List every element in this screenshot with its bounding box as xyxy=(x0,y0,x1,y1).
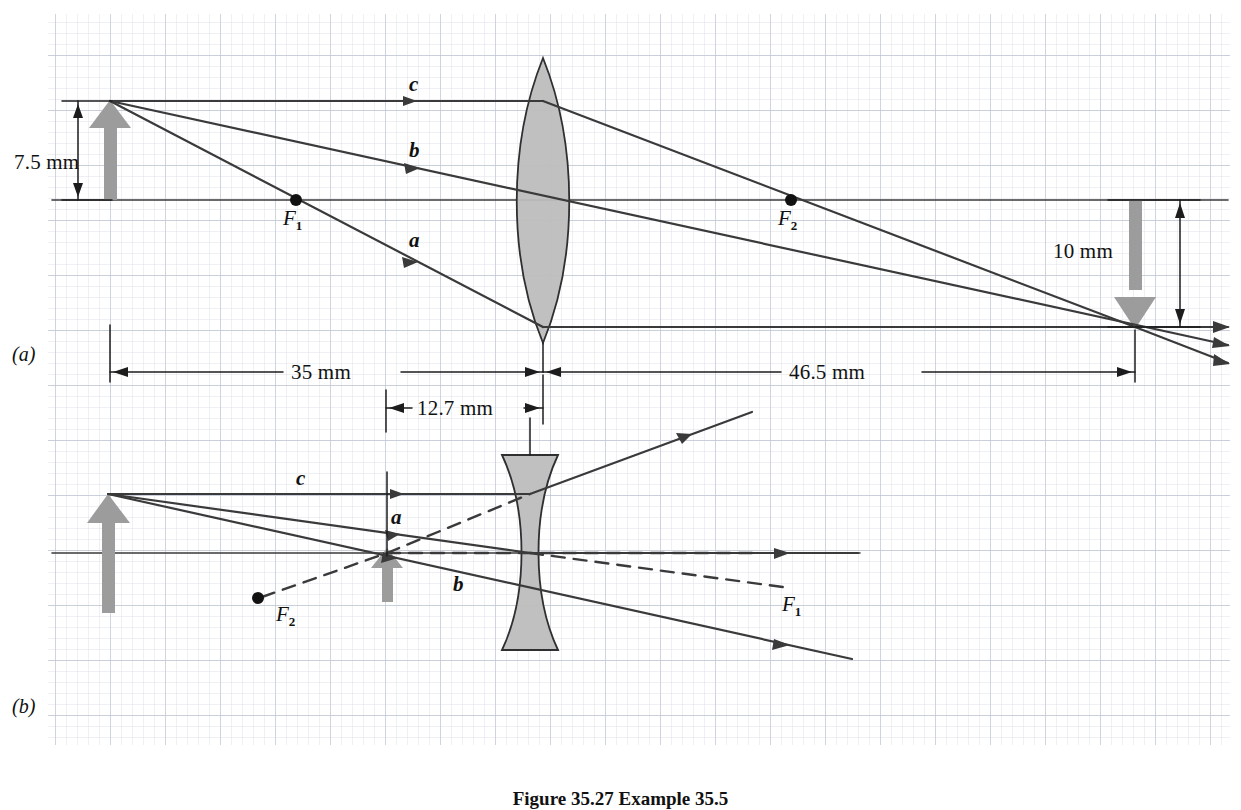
ray-b-b xyxy=(108,494,852,659)
ray-c-b-arrowhead xyxy=(390,489,404,499)
ray-c-b xyxy=(108,412,752,494)
ray-a-b xyxy=(108,494,858,553)
focal-label-f1-b-sub: 1 xyxy=(795,604,802,619)
focal-label-f2-b-letter: F xyxy=(276,602,289,626)
ray-label-b-b: b xyxy=(453,572,464,597)
ray-label-a-b: a xyxy=(391,505,402,530)
virtual-ray-c-b xyxy=(387,494,530,553)
ray-b-b-end-arrowhead xyxy=(772,639,790,650)
focal-label-f1-b: F1 xyxy=(782,592,801,620)
virtual-ray-f2-b xyxy=(262,553,387,597)
focal-label-f2-b: F2 xyxy=(276,602,295,630)
ray-label-c-b: c xyxy=(296,466,305,491)
ray-a-b-out-arrowhead xyxy=(774,548,790,559)
focal-label-f1-b-letter: F xyxy=(782,592,795,616)
figure-caption: Figure 35.27 Example 35.5 xyxy=(0,788,1241,810)
virtual-ray-f1-b xyxy=(530,553,790,588)
panel-label-b: (b) xyxy=(12,695,35,718)
focal-point-f2-b xyxy=(252,592,264,604)
focal-label-f2-b-sub: 2 xyxy=(289,614,296,629)
